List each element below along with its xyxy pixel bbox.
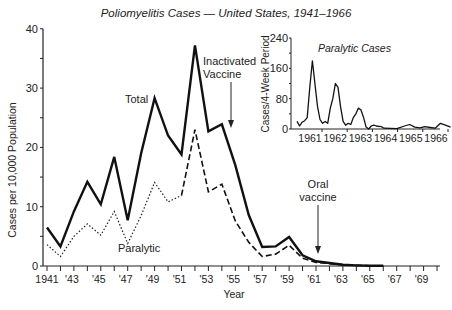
x-tick-label: '55 xyxy=(226,273,240,285)
y-axis-label: Cases per 10,000 Population xyxy=(6,102,18,238)
main-annotations: TotalParalyticInactivatedVaccineOralvacc… xyxy=(118,55,337,254)
inset-x-tick-label: 1963 xyxy=(349,132,373,144)
label-vaccine: Vaccine xyxy=(203,68,241,80)
series-paralytic-dotted xyxy=(47,182,182,256)
inset-y-axis-label: Cases/4-Week Period xyxy=(260,35,271,132)
x-tick-label: '59 xyxy=(280,273,294,285)
inset-x-tick-label: 1964 xyxy=(374,132,398,144)
label-total: Total xyxy=(125,93,148,105)
inset-y-tick-label: 160 xyxy=(270,62,288,74)
series-paralytic-dashed xyxy=(182,130,384,266)
y-tick-label: 30 xyxy=(26,82,38,94)
y-tick-label: 40 xyxy=(26,23,38,35)
inset-y-tick-label: 80 xyxy=(276,93,288,105)
inset-series-paralytic xyxy=(297,61,451,129)
arrowhead-icon xyxy=(315,246,321,254)
x-tick-label: '61 xyxy=(307,273,321,285)
inset-x-tick-label: 1962 xyxy=(324,132,348,144)
x-tick-label: '45 xyxy=(92,273,106,285)
x-tick-label: '51 xyxy=(173,273,187,285)
x-tick-label: '57 xyxy=(253,273,267,285)
y-tick-label: 10 xyxy=(26,201,38,213)
polio-chart: 0102030401941'43'45'47'49'51'53'55'57'59… xyxy=(0,0,452,310)
label-oral: Oral xyxy=(308,178,329,190)
inset-chart: 080160240196119621963196419651966Cases/4… xyxy=(260,32,451,144)
label-oral-vaccine: vaccine xyxy=(299,191,336,203)
inset-title: Paralytic Cases xyxy=(318,42,392,54)
arrowhead-icon xyxy=(228,120,234,128)
x-tick-label: '49 xyxy=(146,273,160,285)
inset-y-tick-label: 0 xyxy=(282,123,288,135)
x-axis-label: Year xyxy=(223,288,245,300)
y-tick-label: 0 xyxy=(32,260,38,272)
x-tick-label: '53 xyxy=(200,273,214,285)
x-tick-label: '43 xyxy=(65,273,79,285)
inset-x-tick-label: 1966 xyxy=(424,132,448,144)
x-tick-label: '47 xyxy=(119,273,133,285)
x-tick-label: '63 xyxy=(334,273,348,285)
y-tick-label: 20 xyxy=(26,141,38,153)
x-tick-label: '69 xyxy=(415,273,429,285)
label-inactivated: Inactivated xyxy=(203,55,256,67)
x-tick-label: 1941 xyxy=(35,273,59,285)
inset-x-tick-label: 1965 xyxy=(399,132,423,144)
x-tick-label: '67 xyxy=(388,273,402,285)
inset-y-tick-label: 240 xyxy=(270,32,288,44)
inset-x-tick-label: 1961 xyxy=(298,132,322,144)
x-tick-label: '65 xyxy=(361,273,375,285)
label-paralytic: Paralytic xyxy=(118,242,161,254)
